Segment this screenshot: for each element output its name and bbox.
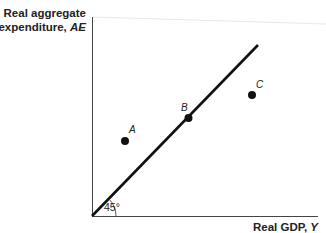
point-c-label: C [256, 79, 264, 90]
point-c [248, 91, 256, 99]
y-axis-variable: AE [70, 21, 86, 33]
x-axis-label-text: Real GDP, [253, 221, 310, 233]
y-axis-label-line2: expenditure, AE [0, 20, 86, 34]
point-b [185, 114, 193, 122]
y-axis-label-line1: Real aggregate [0, 6, 86, 20]
x-axis-label: Real GDP, Y [253, 221, 318, 233]
point-a [121, 137, 129, 145]
top-guide-line [93, 17, 326, 24]
x-axis-variable: Y [310, 221, 318, 233]
chart-canvas: 45° A B C [0, 0, 326, 233]
point-a-label: A [128, 124, 136, 135]
y-axis-label-text: expenditure, [0, 21, 70, 33]
angle-label: 45° [104, 201, 120, 213]
forty-five-degree-line [92, 45, 258, 216]
point-b-label: B [181, 102, 188, 113]
y-axis-label: Real aggregate expenditure, AE [0, 6, 86, 34]
